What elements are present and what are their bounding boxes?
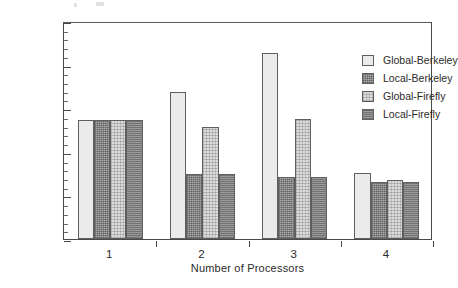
legend-swatch-icon — [362, 91, 374, 102]
bar — [403, 182, 419, 239]
bar — [110, 120, 126, 239]
legend-item[interactable]: Local-Berkeley — [362, 69, 458, 87]
bar — [186, 174, 202, 239]
x-tick — [433, 241, 434, 247]
scan-speckle — [96, 2, 104, 6]
bar — [295, 119, 311, 239]
y-tick-minor — [64, 171, 68, 172]
bar — [94, 120, 110, 239]
legend-item-label: Global-Berkeley — [383, 55, 458, 66]
y-tick-minor — [64, 128, 68, 129]
x-group-label: 2 — [181, 248, 221, 260]
x-axis-title: Number of Processors — [63, 262, 432, 274]
y-tick-minor — [64, 32, 68, 33]
legend-item[interactable]: Local-Firefly — [362, 105, 458, 123]
scan-speckle — [74, 3, 77, 7]
y-tick-minor — [64, 189, 68, 190]
y-tick-minor — [64, 163, 68, 164]
bar — [311, 177, 327, 239]
x-group-label: 1 — [89, 248, 129, 260]
x-tick — [156, 241, 157, 247]
chart-legend: Global-BerkeleyLocal-BerkeleyGlobal-Fire… — [362, 51, 458, 123]
y-tick-minor — [64, 49, 68, 50]
bar — [126, 120, 142, 239]
bar — [371, 182, 387, 239]
y-tick-major — [64, 241, 71, 242]
bar — [219, 174, 235, 239]
y-tick-minor — [64, 215, 68, 216]
y-tick-minor — [64, 101, 68, 102]
legend-swatch-icon — [362, 109, 374, 120]
y-tick-minor — [64, 206, 68, 207]
y-tick-minor — [64, 84, 68, 85]
y-tick-minor — [64, 145, 68, 146]
y-tick-minor — [64, 232, 68, 233]
plot-area: Global-BerkeleyLocal-BerkeleyGlobal-Fire… — [63, 22, 432, 240]
bar — [170, 92, 186, 239]
y-tick-minor — [64, 75, 68, 76]
legend-item[interactable]: Global-Firefly — [362, 87, 458, 105]
y-tick-minor — [64, 119, 68, 120]
y-tick-major — [64, 154, 71, 155]
y-tick-minor — [64, 58, 68, 59]
x-group-label: 3 — [274, 248, 314, 260]
bar — [78, 120, 94, 239]
y-tick-minor — [64, 40, 68, 41]
legend-item-label: Global-Firefly — [383, 91, 445, 102]
legend-swatch-icon — [362, 73, 374, 84]
legend-item[interactable]: Global-Berkeley — [362, 51, 458, 69]
y-tick-major — [64, 197, 71, 198]
y-tick-major — [64, 67, 71, 68]
legend-item-label: Local-Firefly — [383, 109, 440, 120]
y-tick-minor — [64, 93, 68, 94]
legend-item-label: Local-Berkeley — [383, 73, 452, 84]
x-tick — [249, 241, 250, 247]
bar — [278, 177, 294, 239]
bar — [387, 180, 403, 239]
y-tick-minor — [64, 180, 68, 181]
bar — [262, 53, 278, 239]
y-tick-major — [64, 23, 71, 24]
x-tick — [341, 241, 342, 247]
bar — [202, 127, 218, 239]
y-tick-major — [64, 110, 71, 111]
x-group-label: 4 — [366, 248, 406, 260]
bar — [354, 173, 370, 239]
y-tick-minor — [64, 136, 68, 137]
legend-swatch-icon — [362, 55, 374, 66]
y-tick-minor — [64, 224, 68, 225]
